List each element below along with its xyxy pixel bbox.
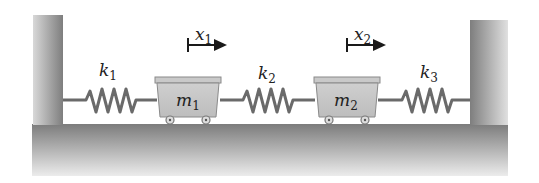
mass-m2: m2 (314, 77, 380, 124)
displacement-x2-label: x2 (354, 24, 371, 47)
mass-m1: m1 (155, 77, 221, 124)
floor (32, 124, 508, 176)
left-wall (33, 15, 63, 125)
right-wall (470, 20, 508, 125)
spring-k2-label: k2 (258, 63, 276, 86)
spring-k2 (220, 89, 315, 112)
spring-k1-label: k1 (99, 60, 117, 83)
displacement-x1-label: x1 (195, 24, 212, 47)
spring-k1 (63, 89, 157, 112)
spring-k3-label: k3 (420, 62, 438, 85)
spring-k3 (378, 89, 470, 112)
spring-mass-diagram: m1 m2 k1 k2 k3 x1 x2 (0, 0, 539, 183)
